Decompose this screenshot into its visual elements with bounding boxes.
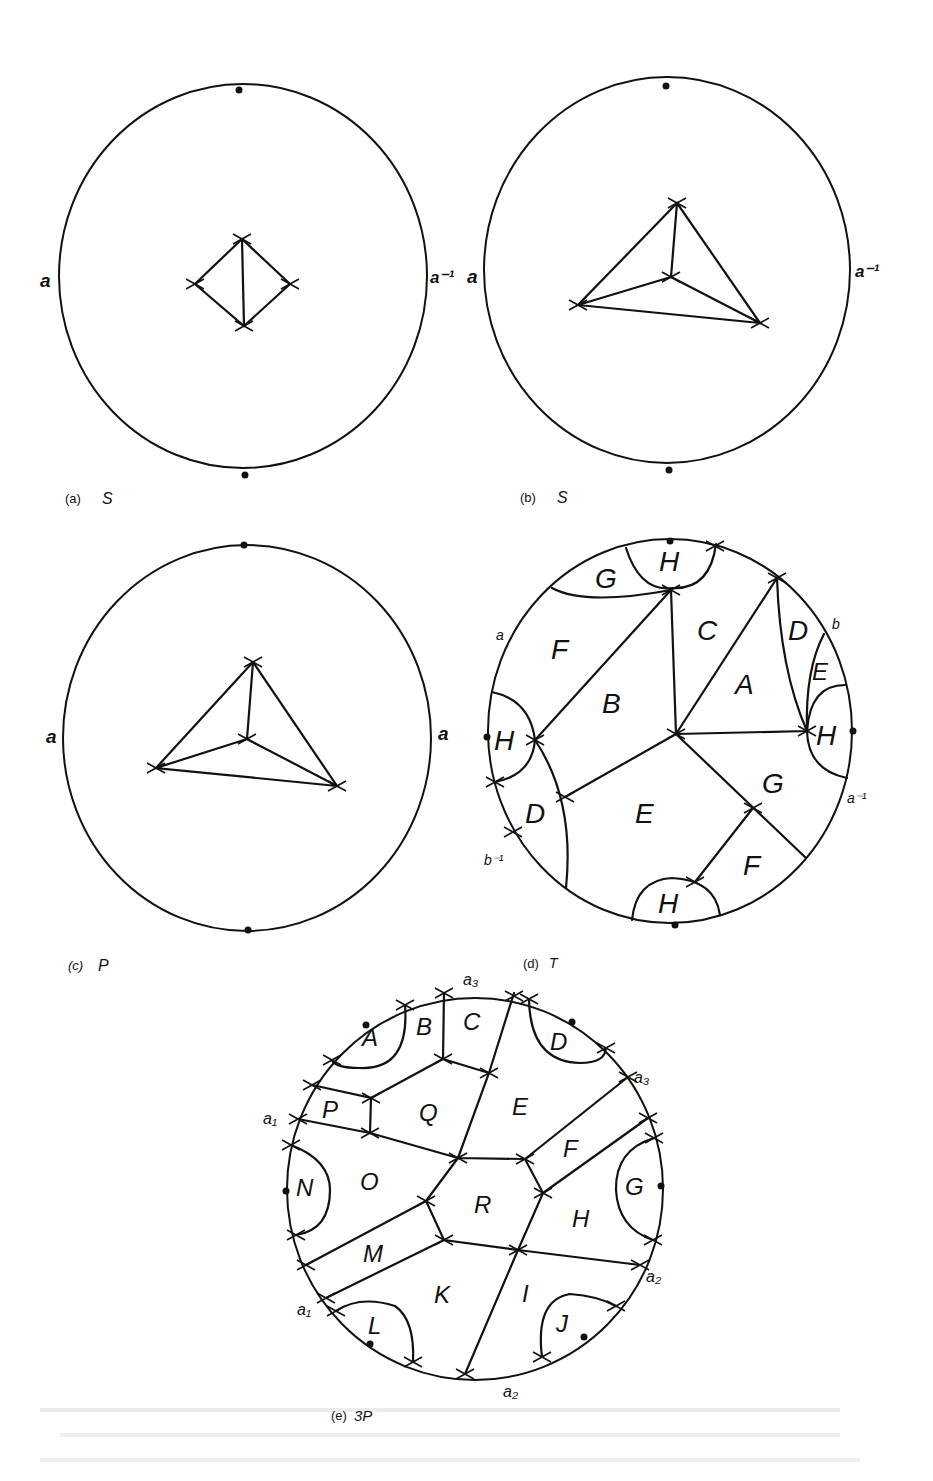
region-label: F	[743, 850, 762, 881]
base-point-dot	[569, 1019, 576, 1026]
caption-tag: (e)	[331, 1408, 347, 1423]
region-label: M	[363, 1240, 383, 1267]
base-point-dot	[666, 467, 673, 474]
base-point-dot	[663, 83, 670, 90]
region-label: H	[494, 725, 515, 756]
region-label: H	[816, 720, 837, 751]
edge-label-a1-left: a₁	[263, 1110, 277, 1127]
edge-label-b: b	[832, 616, 840, 632]
region-label: A	[733, 669, 754, 700]
triangle-graph	[147, 657, 346, 791]
base-point-dot	[236, 87, 243, 94]
panel-c: a a (c) P	[46, 542, 449, 975]
edge-label-a1-lower: a₁	[297, 1301, 311, 1318]
panel-d: G H C D F E A B H H D E G F H a b a⁻¹ b⁻…	[484, 538, 867, 972]
caption-tag: (a)	[65, 491, 81, 506]
caption-name: S	[102, 490, 113, 507]
region-label: R	[474, 1191, 491, 1218]
base-point-dot	[667, 538, 674, 545]
region-label: H	[659, 546, 680, 577]
caption-name: T	[549, 955, 559, 971]
region-label: P	[322, 1096, 338, 1123]
region-label: O	[360, 1168, 379, 1195]
edge-label-a2-bottom: a₂	[503, 1383, 518, 1400]
region-label: N	[296, 1174, 314, 1201]
base-point-dot	[672, 922, 679, 929]
region-label: E	[512, 1093, 529, 1120]
edge-label-right: a⁻¹	[430, 268, 454, 287]
region-label: H	[658, 888, 679, 919]
region-label: E	[635, 798, 654, 829]
base-point-dot	[367, 1341, 374, 1348]
region-label: D	[788, 615, 808, 646]
caption-tag: (d)	[523, 956, 539, 971]
region-label: F	[563, 1135, 579, 1162]
base-point-dot	[242, 472, 249, 479]
base-point-dot	[581, 1334, 588, 1341]
region-label: D	[525, 798, 545, 829]
edge-label-a3-top: a₃	[463, 971, 478, 988]
region-labels: A B C D P Q E F N O R G H M K I L J	[296, 1008, 644, 1339]
edge-label-a: a	[496, 627, 504, 643]
triangle-graph	[569, 198, 769, 328]
caption-tag: (b)	[520, 490, 536, 505]
region-label: K	[434, 1281, 451, 1308]
caption-name: P	[98, 957, 109, 974]
edge-label-left: a	[467, 266, 478, 287]
panel-b: a a⁻¹ (b) S	[467, 77, 879, 506]
edge-label-a-inverse: a⁻¹	[847, 790, 867, 806]
region-label: H	[572, 1205, 590, 1232]
edge-label-b-inverse: b⁻¹	[484, 852, 504, 868]
region-label: B	[416, 1013, 432, 1040]
caption-name: 3P	[354, 1407, 372, 1424]
base-point-dot	[850, 728, 857, 735]
base-point-dot	[245, 927, 252, 934]
rhombus-graph	[186, 234, 299, 331]
region-label: G	[762, 768, 784, 799]
edge-label-left: a	[40, 270, 51, 291]
edge-label-a3-right: a₃	[634, 1069, 649, 1086]
base-point-dot	[658, 1183, 665, 1190]
panel-e: A B C D P Q E F N O R G H M K I L J a₃ a…	[263, 971, 665, 1424]
figure-canvas: a a⁻¹ (a) S a a⁻¹ (b) S a	[0, 0, 933, 1481]
region-label: L	[368, 1312, 381, 1339]
edge-label-left: a	[46, 726, 57, 747]
panel-e-disc	[287, 998, 663, 1380]
region-label: G	[625, 1173, 644, 1200]
panel-a: a a⁻¹ (a) S	[40, 84, 454, 507]
bleed-through-text	[40, 1408, 860, 1462]
region-label: E	[812, 658, 829, 685]
region-label: D	[550, 1028, 567, 1055]
region-label: J	[555, 1310, 569, 1337]
region-label: F	[551, 634, 570, 665]
caption-tag: (c)	[68, 958, 83, 973]
region-label: I	[522, 1280, 529, 1307]
region-label: A	[360, 1024, 378, 1051]
base-point-dot	[484, 734, 491, 741]
caption-name: S	[557, 489, 568, 506]
edge-label-a2-right: a₂	[646, 1268, 661, 1285]
region-label: B	[602, 688, 621, 719]
region-label: C	[463, 1008, 481, 1035]
panel-b-disc	[484, 77, 850, 463]
edge-label-right: a	[438, 723, 449, 744]
region-label: G	[595, 563, 617, 594]
region-label: C	[697, 615, 718, 646]
region-label: Q	[419, 1099, 438, 1126]
edge-label-right: a⁻¹	[855, 262, 879, 281]
base-point-dot	[283, 1188, 290, 1195]
base-point-dot	[241, 542, 248, 549]
